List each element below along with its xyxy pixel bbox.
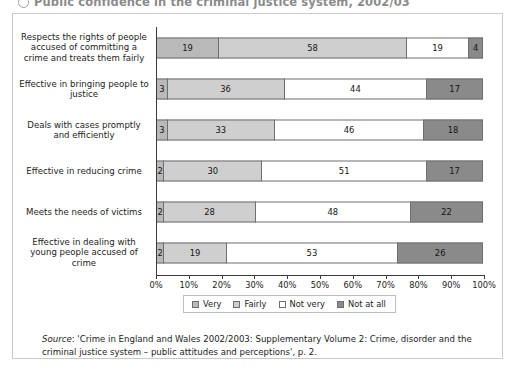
x-tick-label: 30%: [245, 280, 263, 290]
x-tick-label: 0%: [149, 280, 162, 290]
bar-segment-fairly: 30: [163, 160, 261, 181]
legend-swatch-icon: [279, 301, 286, 308]
x-tick-label: 20%: [212, 280, 230, 290]
x-tick-label: 60%: [344, 280, 362, 290]
bar-segment-not-at-all: 4: [468, 37, 483, 58]
stacked-bar: 3334618: [156, 119, 483, 140]
bar-segment-not-very: 48: [255, 201, 411, 222]
bar-segment-very: 2: [156, 160, 163, 181]
bar-segment-not-very: 51: [261, 160, 426, 181]
x-tick-label: 70%: [376, 280, 394, 290]
x-tick-label: 50%: [311, 280, 329, 290]
bar-segment-not-at-all: 18: [423, 119, 483, 140]
bar-segment-fairly: 58: [218, 37, 406, 58]
bar-segment-not-at-all: 17: [426, 78, 483, 99]
chart-row: Effective in reducing crime2305117: [12, 150, 503, 191]
category-label: Effective in reducing crime: [18, 165, 150, 176]
stacked-bar-chart: Respects the rights of people accused of…: [12, 13, 503, 359]
stacked-bar: 2305117: [156, 160, 483, 181]
legend-label: Not at all: [348, 299, 386, 309]
x-tick-mark: [254, 275, 255, 279]
bar-segment-fairly: 28: [163, 201, 254, 222]
legend-swatch-icon: [337, 301, 344, 308]
legend-label: Fairly: [244, 299, 266, 309]
bar-segment-very: 3: [156, 78, 167, 99]
x-tick-mark: [353, 275, 354, 279]
chart-row: Deals with cases promptly and efficientl…: [12, 109, 503, 150]
bar-segment-very: 2: [156, 242, 163, 263]
category-label: Effective in bringing people to justice: [18, 78, 150, 99]
x-tick-mark: [156, 275, 157, 279]
source-text: : 'Crime in England and Wales 2002/2003:…: [42, 334, 472, 357]
legend-label: Not very: [290, 299, 326, 309]
chart-row: Effective in bringing people to justice3…: [12, 68, 503, 109]
x-tick-mark: [320, 275, 321, 279]
figure-title-text: Public confidence in the criminal justic…: [34, 0, 410, 9]
y-axis-line: [156, 27, 157, 276]
category-label: Effective in dealing with young people a…: [18, 237, 150, 269]
category-label: Deals with cases promptly and efficientl…: [18, 119, 150, 140]
x-tick-mark: [189, 275, 190, 279]
x-tick-mark: [484, 275, 485, 279]
legend-item-very: Very: [192, 299, 221, 309]
bar-segment-fairly: 33: [167, 119, 274, 140]
bar-segment-not-at-all: 26: [397, 242, 483, 263]
bar-segment-not-very: 53: [226, 242, 398, 263]
source-label: Source: [42, 334, 72, 344]
legend-item-not-very: Not very: [279, 299, 326, 309]
source-note: Source: 'Crime in England and Wales 2002…: [42, 333, 494, 358]
legend-label: Very: [203, 299, 221, 309]
bar-segment-very: 19: [156, 37, 218, 58]
stacked-bar: 2284822: [156, 201, 483, 222]
bar-segment-not-very: 46: [274, 119, 423, 140]
circle-bullet-icon: [18, 0, 29, 8]
category-label: Respects the rights of people accused of…: [18, 32, 150, 64]
figure-title: Public confidence in the criminal justic…: [0, 0, 526, 9]
chart-rows: Respects the rights of people accused of…: [12, 27, 503, 274]
chart-row: Effective in dealing with young people a…: [12, 232, 503, 273]
x-tick-mark: [451, 275, 452, 279]
stacked-bar: 2195326: [156, 242, 483, 263]
stacked-bar: 1958194: [156, 37, 483, 58]
category-label: Meets the needs of victims: [18, 206, 150, 217]
x-tick-label: 100%: [472, 280, 496, 290]
bar-segment-not-at-all: 22: [410, 201, 483, 222]
x-tick-label: 10%: [180, 280, 198, 290]
x-tick-label: 80%: [409, 280, 427, 290]
bar-segment-very: 2: [156, 201, 163, 222]
legend-item-not-at-all: Not at all: [337, 299, 386, 309]
legend-item-fairly: Fairly: [233, 299, 266, 309]
legend-swatch-icon: [192, 301, 199, 308]
chart-row: Respects the rights of people accused of…: [12, 27, 503, 68]
stacked-bar: 3364417: [156, 78, 483, 99]
x-tick-mark: [222, 275, 223, 279]
bar-segment-fairly: 19: [163, 242, 225, 263]
x-tick-label: 40%: [278, 280, 296, 290]
x-tick-mark: [418, 275, 419, 279]
bar-segment-very: 3: [156, 119, 167, 140]
bar-segment-not-very: 44: [284, 78, 427, 99]
chart-row: Meets the needs of victims2284822: [12, 191, 503, 232]
x-tick-mark: [386, 275, 387, 279]
x-tick-mark: [287, 275, 288, 279]
bar-segment-fairly: 36: [167, 78, 284, 99]
bar-segment-not-very: 19: [406, 37, 468, 58]
legend-swatch-icon: [233, 301, 240, 308]
chart-legend: VeryFairlyNot veryNot at all: [183, 295, 396, 313]
bar-segment-not-at-all: 17: [426, 160, 483, 181]
x-tick-label: 90%: [442, 280, 460, 290]
